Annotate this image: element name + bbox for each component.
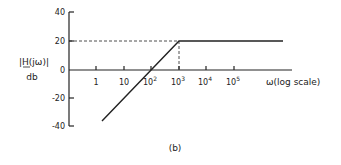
x-tick-label: 103 [171, 75, 185, 87]
y-tick-label: 0 [60, 66, 65, 75]
x-tick-label: 105 [226, 75, 240, 87]
y-tick-label: -40 [52, 122, 65, 131]
figure-caption: (b) [169, 143, 182, 153]
y-axis-unit: db [26, 72, 38, 82]
x-tick-labels: 1 10 102 103 104 105 [93, 75, 240, 87]
y-tick-labels: 40 20 0 -20 -40 [52, 8, 65, 131]
y-ticks [69, 12, 74, 126]
y-tick-label: -20 [52, 94, 65, 103]
y-tick-label: 20 [55, 37, 65, 46]
y-tick-label: 40 [55, 8, 65, 17]
x-axis-label: ω(log scale) [266, 77, 320, 87]
magnitude-curve [102, 41, 283, 121]
bode-plot: 40 20 0 -20 -40 |H(jω)| db 1 10 102 103 … [0, 0, 341, 165]
x-tick-label: 1 [93, 78, 98, 87]
y-axis-label: |H(jω)| [19, 57, 49, 67]
x-tick-label: 10 [119, 78, 129, 87]
x-tick-label: 104 [198, 75, 212, 87]
